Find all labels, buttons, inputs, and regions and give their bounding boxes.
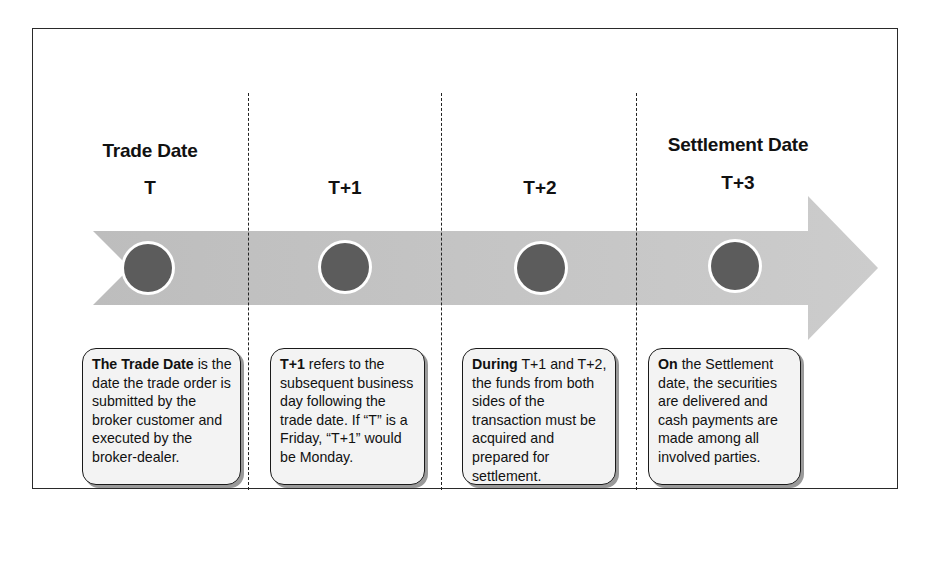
description-text: refers to the subsequent business day fo… <box>280 356 413 465</box>
description-text: is the date the trade order is submitted… <box>92 356 232 465</box>
stage-step-t2: T+2 <box>470 177 610 199</box>
stage-step-t: T <box>80 177 220 199</box>
description-text: the Settlement date, the securities are … <box>658 356 778 465</box>
description-box-t2: During T+1 and T+2, the funds from both … <box>462 348 616 485</box>
divider-3 <box>636 93 637 490</box>
description-box-settlement: On the Settlement date, the securities a… <box>648 348 801 485</box>
divider-1 <box>248 93 249 490</box>
stage-title-trade-date: Trade Date <box>80 140 220 162</box>
description-bold: T+1 <box>280 356 305 372</box>
description-bold: The Trade Date <box>92 356 194 372</box>
stage-step-t1: T+1 <box>275 177 415 199</box>
description-box-t1: T+1 refers to the subsequent business da… <box>270 348 425 485</box>
description-text: T+1 and T+2, the funds from both sides o… <box>472 356 606 484</box>
stage-step-t3: T+3 <box>668 172 808 194</box>
description-box-trade-date: The Trade Date is the date the trade ord… <box>82 348 241 485</box>
description-bold: On <box>658 356 678 372</box>
divider-2 <box>441 93 442 490</box>
description-bold: During <box>472 356 518 372</box>
stage-title-settlement-date: Settlement Date <box>648 134 828 156</box>
